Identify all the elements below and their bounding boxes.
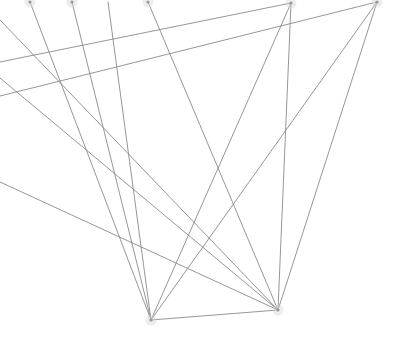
top-node-e bbox=[375, 0, 378, 3]
diagram-canvas bbox=[0, 0, 419, 356]
top-node-c bbox=[146, 0, 149, 3]
hub-node-left bbox=[149, 318, 152, 321]
top-node-a bbox=[28, 0, 31, 3]
canvas-background bbox=[0, 0, 419, 356]
top-node-d bbox=[289, 1, 292, 4]
top-node-b bbox=[70, 0, 73, 3]
line-graph-svg bbox=[0, 0, 419, 356]
hub-node-right bbox=[276, 308, 279, 311]
